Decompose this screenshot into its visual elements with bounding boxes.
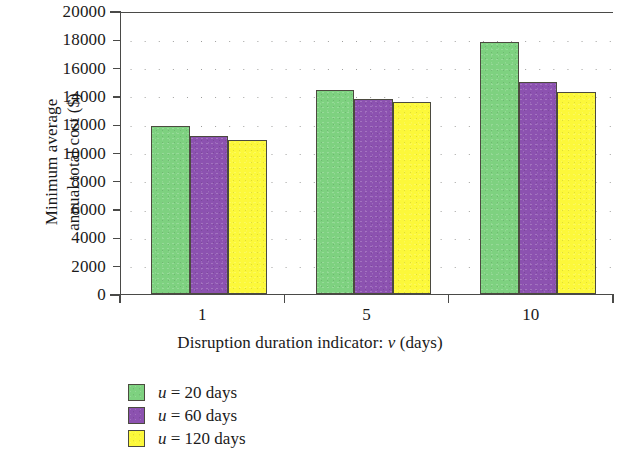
- bar-10-u-120-days: [557, 92, 596, 294]
- gridline: [121, 69, 613, 70]
- y-axis-tick-label: 0: [20, 286, 106, 303]
- legend-item: u = 60 days: [128, 405, 246, 425]
- x-axis-tick: [612, 294, 614, 303]
- legend-variable: u: [158, 383, 167, 402]
- y-axis-tick-label: 20000: [20, 3, 106, 20]
- legend-label: u = 20 days: [158, 384, 237, 401]
- legend-swatch: [128, 384, 145, 401]
- x-axis-title: Disruption duration indicator: v (days): [0, 332, 620, 354]
- gridline: [121, 41, 613, 42]
- legend-label: u = 120 days: [158, 430, 246, 447]
- y-axis-tick-label: 16000: [20, 60, 106, 77]
- x-axis-tick-label: 5: [337, 305, 397, 325]
- bar-1-u-60-days: [190, 136, 229, 294]
- x-axis-title-variable: v: [388, 333, 396, 352]
- legend-equals: =: [167, 429, 185, 448]
- x-axis-tick-label: 1: [172, 305, 232, 325]
- x-axis-title-suffix: (days): [400, 333, 443, 352]
- legend-item: u = 20 days: [128, 382, 246, 402]
- legend-value: 120 days: [185, 429, 246, 448]
- x-axis-tick: [284, 294, 286, 303]
- legend-variable: u: [158, 406, 167, 425]
- legend-equals: =: [167, 406, 185, 425]
- y-axis-tick-label: 4000: [20, 229, 106, 246]
- x-axis-title-prefix: Disruption duration indicator:: [177, 333, 383, 352]
- bar-1-u-20-days: [151, 126, 190, 294]
- legend-swatch: [128, 430, 145, 447]
- legend-variable: u: [158, 429, 167, 448]
- legend-swatch: [128, 407, 145, 424]
- legend-value: 20 days: [185, 383, 237, 402]
- y-axis-tick-label: 18000: [20, 31, 106, 48]
- y-axis-tick-label: 14000: [20, 88, 106, 105]
- legend-value: 60 days: [185, 406, 237, 425]
- bar-10-u-60-days: [519, 82, 558, 294]
- x-axis-tick: [119, 294, 121, 303]
- legend-equals: =: [167, 383, 185, 402]
- bar-1-u-120-days: [228, 140, 267, 294]
- x-axis-tick: [448, 294, 450, 303]
- y-axis-tick-label: 2000: [20, 258, 106, 275]
- bar-10-u-20-days: [480, 42, 519, 294]
- bar-5-u-20-days: [316, 90, 355, 294]
- legend: u = 20 daysu = 60 daysu = 120 days: [128, 382, 246, 448]
- y-axis-tick-label: 10000: [20, 145, 106, 162]
- bar-5-u-120-days: [393, 102, 432, 294]
- bar-5-u-60-days: [354, 99, 393, 294]
- y-axis-tick-label: 8000: [20, 173, 106, 190]
- legend-label: u = 60 days: [158, 407, 237, 424]
- y-axis-tick-label: 6000: [20, 201, 106, 218]
- plot-area: [120, 12, 613, 295]
- bar-chart-figure: Minimum averageannual total cost ($) 020…: [0, 0, 620, 462]
- legend-item: u = 120 days: [128, 428, 246, 448]
- x-axis-tick-label: 10: [501, 305, 561, 325]
- y-axis-tick-label: 12000: [20, 116, 106, 133]
